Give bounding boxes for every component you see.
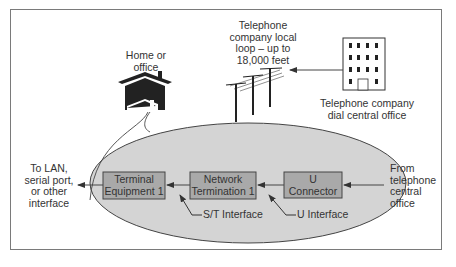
u-connector-label: U Connector — [284, 174, 342, 197]
telephone-poles-icon — [226, 68, 284, 122]
from-central-label: From telephone central office — [390, 163, 450, 209]
network-termination-label: Network Termination 1 — [190, 174, 256, 197]
office-building-icon — [343, 38, 385, 90]
house-icon — [118, 71, 172, 110]
home-label: Home or office — [118, 50, 174, 73]
st-interface-label: S/T Interface — [203, 209, 283, 221]
central-office-label: Telephone company dial central office — [312, 98, 422, 121]
lan-output-label: To LAN, serial port, or other interface — [18, 163, 80, 209]
house-wire-inner — [145, 112, 150, 132]
terminal-equipment-label: Terminal Equipment 1 — [103, 174, 165, 197]
local-loop-label: Telephone company local loop – up to 18,… — [208, 20, 318, 66]
u-interface-label: U Interface — [297, 209, 367, 221]
